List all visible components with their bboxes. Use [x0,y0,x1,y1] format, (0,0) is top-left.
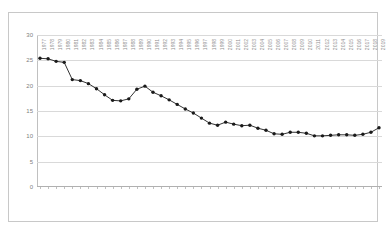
x-tickmark-1993 [169,187,170,189]
x-tickmark-2011 [314,187,315,189]
data-point-2011 [313,134,316,137]
data-point-1981 [71,78,74,81]
data-point-2006 [272,132,275,135]
data-point-1992 [159,94,162,97]
data-point-2008 [289,131,292,134]
y-tick-label-0: 0 [30,184,33,190]
data-point-2003 [248,123,251,126]
x-tickmark-2006 [274,187,275,189]
data-point-1994 [176,103,179,106]
data-point-1982 [79,79,82,82]
y-tick-label-25: 25 [26,57,33,63]
data-point-2007 [280,133,283,136]
data-point-1990 [143,84,146,87]
data-point-1978 [46,57,49,60]
data-point-2013 [329,134,332,137]
y-tick-label-5: 5 [30,159,33,165]
x-tickmark-1988 [129,187,130,189]
x-tickmark-2009 [298,187,299,189]
data-point-1987 [119,99,122,102]
x-tickmark-1989 [137,187,138,189]
x-tickmark-2013 [331,187,332,189]
x-tickmark-2005 [266,187,267,189]
data-point-1995 [184,107,187,110]
x-tickmark-2010 [306,187,307,189]
y-tick-label-30: 30 [26,32,33,38]
x-tickmark-1978 [48,187,49,189]
data-point-2015 [345,133,348,136]
x-tickmark-1997 [201,187,202,189]
x-tickmark-1979 [56,187,57,189]
x-tickmark-1992 [161,187,162,189]
x-tickmark-2019 [379,187,380,189]
x-tickmark-2008 [290,187,291,189]
data-point-1998 [208,121,211,124]
data-point-2000 [224,120,227,123]
data-point-1991 [151,91,154,94]
x-tickmark-2016 [355,187,356,189]
data-point-1989 [135,88,138,91]
x-tickmark-2002 [242,187,243,189]
y-tick-label-20: 20 [26,83,33,89]
x-tickmark-1986 [113,187,114,189]
y-tick-label-10: 10 [26,133,33,139]
data-point-1983 [87,82,90,85]
plot-area: 051015202530 197719781979198019811982198… [37,35,382,187]
data-point-2005 [264,129,267,132]
data-point-2010 [305,132,308,135]
chart-container: 051015202530 197719781979198019811982198… [0,0,389,235]
data-point-2019 [377,126,380,129]
x-tickmark-1980 [64,187,65,189]
x-tickmark-1983 [88,187,89,189]
data-point-1980 [63,61,66,64]
data-point-1988 [127,97,130,100]
data-point-2009 [297,131,300,134]
data-point-1985 [103,93,106,96]
data-point-2014 [337,133,340,136]
x-tickmark-1998 [210,187,211,189]
x-tickmark-2003 [250,187,251,189]
x-tickmark-2004 [258,187,259,189]
data-point-1997 [200,116,203,119]
data-point-1999 [216,123,219,126]
data-point-1984 [95,87,98,90]
data-point-2001 [232,122,235,125]
x-tickmark-2017 [363,187,364,189]
x-tickmark-1977 [40,187,41,189]
x-tickmark-1982 [80,187,81,189]
x-tickmark-2014 [339,187,340,189]
data-point-2018 [369,131,372,134]
data-point-1977 [38,57,41,60]
series-markers [38,57,380,138]
x-tickmark-1994 [177,187,178,189]
x-tickmark-2012 [323,187,324,189]
data-point-2012 [321,134,324,137]
data-point-1979 [54,60,57,63]
x-tickmark-1990 [145,187,146,189]
x-tickmark-2018 [371,187,372,189]
x-tickmark-2001 [234,187,235,189]
x-tickmark-1991 [153,187,154,189]
data-point-2017 [361,133,364,136]
x-tickmark-1995 [185,187,186,189]
x-tickmark-1999 [218,187,219,189]
x-tickmark-2015 [347,187,348,189]
data-series-line [37,35,382,187]
x-tickmark-2000 [226,187,227,189]
x-tickmark-1996 [193,187,194,189]
data-point-2002 [240,124,243,127]
data-point-1993 [167,98,170,101]
x-tickmark-1984 [97,187,98,189]
data-point-2004 [256,127,259,130]
chart-plot-frame: 051015202530 197719781979198019811982198… [8,12,378,222]
y-tick-label-15: 15 [26,108,33,114]
x-tickmark-1981 [72,187,73,189]
data-point-1996 [192,111,195,114]
data-point-1986 [111,99,114,102]
x-tickmark-2007 [282,187,283,189]
x-tickmark-1985 [105,187,106,189]
x-tickmark-1987 [121,187,122,189]
data-point-2016 [353,134,356,137]
